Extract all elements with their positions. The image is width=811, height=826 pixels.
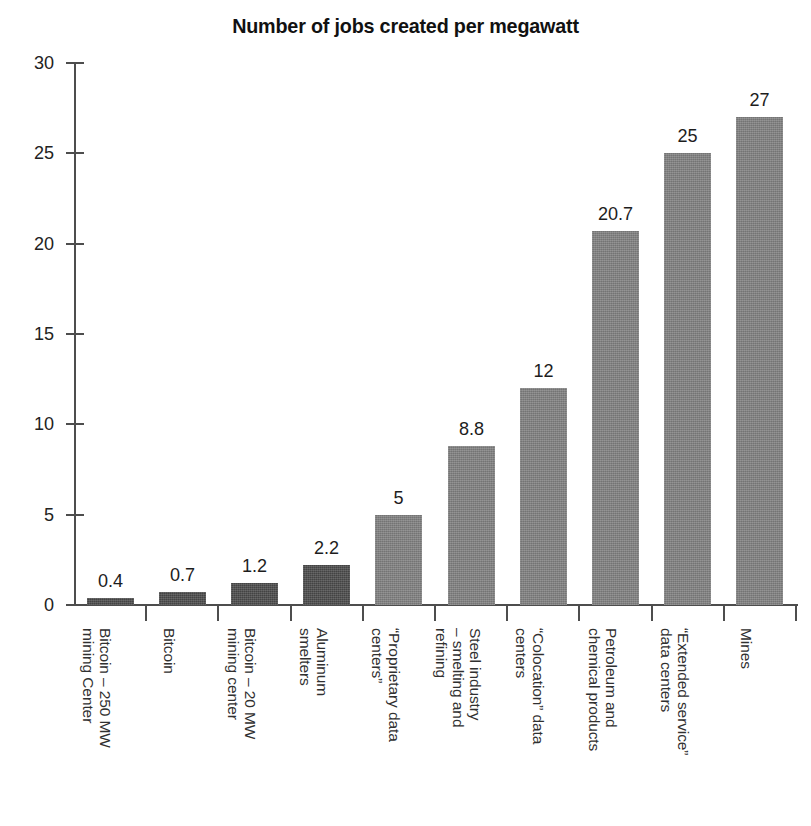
x-tick-mark — [795, 606, 797, 621]
bar-value-label: 5 — [363, 488, 434, 507]
bar-value-label: 12 — [508, 361, 579, 380]
x-tick-mark — [578, 606, 580, 621]
bar-value-label: 20.7 — [580, 204, 651, 223]
bar-value-label: 27 — [724, 90, 795, 109]
bar[interactable] — [303, 565, 350, 605]
y-tick-label: 20 — [10, 234, 54, 253]
x-category-label: “Extended service” data centers — [658, 628, 692, 755]
bar[interactable] — [87, 598, 134, 605]
x-category-label: Bitcoin – 250 MW mining Center — [80, 628, 114, 748]
x-category-label: “Proprietary data centers” — [369, 628, 403, 742]
bar-value-label: 1.2 — [219, 556, 290, 575]
x-category-label: Aluminum smelters — [297, 628, 331, 696]
x-category-label: Petroleum and chemical products — [586, 628, 620, 751]
y-tick-label: 30 — [10, 53, 54, 72]
x-tick-mark — [217, 606, 219, 621]
x-category-label: Bitcoin — [161, 628, 178, 674]
bar-value-label: 0.4 — [74, 571, 145, 590]
x-category-label: Bitcoin – 20 MW mining center — [225, 628, 259, 739]
y-tick-label: 15 — [10, 324, 54, 343]
bar[interactable] — [375, 515, 422, 605]
x-tick-mark — [723, 606, 725, 621]
x-tick-mark — [434, 606, 436, 621]
x-category-label: Steel industry – smelting and refining — [433, 628, 484, 727]
x-tick-mark — [651, 606, 653, 621]
bar[interactable] — [231, 583, 278, 605]
x-category-label: Mines — [738, 628, 755, 669]
x-category-label: “Colocation” data centers — [513, 628, 547, 744]
y-tick-label: 25 — [10, 143, 54, 162]
x-tick-mark — [506, 606, 508, 621]
bar[interactable] — [448, 446, 495, 605]
bar[interactable] — [664, 153, 711, 605]
y-tick-label: 5 — [10, 505, 54, 524]
chart-title: Number of jobs created per megawatt — [24, 14, 786, 38]
y-tick-label: 10 — [10, 414, 54, 433]
bar-value-label: 8.8 — [435, 419, 506, 438]
y-tick-label: 0 — [10, 595, 54, 614]
bar-value-label: 25 — [652, 126, 723, 145]
bar-chart: Number of jobs created per megawatt 0510… — [0, 0, 811, 826]
bar[interactable] — [736, 117, 783, 605]
x-tick-mark — [362, 606, 364, 621]
bar[interactable] — [520, 388, 567, 605]
x-tick-mark — [290, 606, 292, 621]
bar-value-label: 0.7 — [147, 565, 218, 584]
bar[interactable] — [159, 592, 206, 605]
x-tick-mark — [145, 606, 147, 621]
bar[interactable] — [592, 231, 639, 605]
bar-value-label: 2.2 — [291, 538, 362, 557]
